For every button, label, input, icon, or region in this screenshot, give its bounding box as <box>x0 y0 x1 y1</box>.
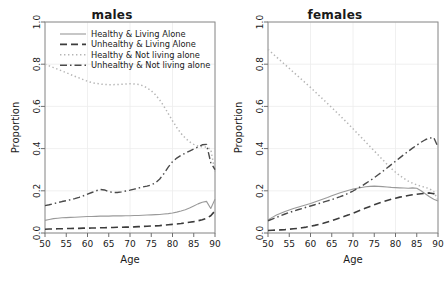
x-tick-label: 55 <box>61 239 72 249</box>
panel-males: males 0.00.20.40.60.81.05055606570758085… <box>0 0 224 283</box>
x-tick-label: 80 <box>167 239 179 249</box>
x-tick-label: 85 <box>188 239 199 249</box>
y-axis-label: Proportion <box>10 102 21 154</box>
y-tick-label: 1.0 <box>32 15 42 30</box>
x-tick-label: 60 <box>82 239 94 249</box>
legend-label-2: Unhealthy & Living Alone <box>91 39 196 49</box>
x-tick-label: 70 <box>124 239 136 249</box>
x-axis-label: Age <box>343 254 362 265</box>
y-tick-label: 0.4 <box>32 141 42 156</box>
y-axis-label: Proportion <box>233 102 244 154</box>
y-tick-label: 0.2 <box>32 184 42 198</box>
plot-area-males: 0.00.20.40.60.81.0505560657075808590AgeP… <box>0 0 224 283</box>
plot-area-females: 0.00.20.40.60.81.0505560657075808590AgeP… <box>223 0 447 283</box>
legend-label-3: Healthy & Not living alone <box>91 50 200 60</box>
x-tick-label: 60 <box>305 239 317 249</box>
y-tick-label: 0.0 <box>32 226 42 241</box>
figure-two-panel-line-chart: males 0.00.20.40.60.81.05055606570758085… <box>0 0 447 283</box>
x-tick-label: 80 <box>390 239 402 249</box>
x-tick-label: 90 <box>209 239 221 249</box>
x-tick-label: 70 <box>347 239 359 249</box>
y-tick-label: 0.4 <box>255 141 265 156</box>
x-tick-label: 75 <box>146 239 157 249</box>
y-tick-label: 0.8 <box>255 57 265 72</box>
x-tick-label: 65 <box>103 239 114 249</box>
x-tick-label: 75 <box>369 239 380 249</box>
y-tick-label: 0.6 <box>255 99 265 114</box>
x-axis-label: Age <box>120 254 139 265</box>
x-tick-label: 50 <box>262 239 274 249</box>
x-tick-label: 50 <box>39 239 51 249</box>
legend-label-1: Healthy & Living Alone <box>91 29 186 39</box>
y-tick-label: 1.0 <box>255 15 265 30</box>
x-tick-label: 90 <box>432 239 444 249</box>
y-tick-label: 0.8 <box>32 57 42 72</box>
y-tick-label: 0.0 <box>255 226 265 241</box>
x-tick-label: 65 <box>326 239 337 249</box>
x-tick-label: 55 <box>284 239 295 249</box>
x-tick-label: 85 <box>411 239 422 249</box>
y-tick-label: 0.2 <box>255 184 265 198</box>
y-tick-label: 0.6 <box>32 99 42 114</box>
panel-females: females 0.00.20.40.60.81.050556065707580… <box>223 0 447 283</box>
legend-label-4: Unhealthy & Not living alone <box>91 60 210 70</box>
